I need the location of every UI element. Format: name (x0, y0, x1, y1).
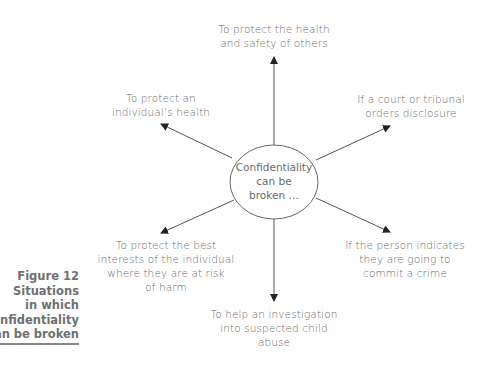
situation-line: orders disclosure (346, 106, 476, 120)
center-line: can be (230, 174, 318, 188)
arrow-upper-right (316, 126, 390, 160)
caption-line: in which (0, 298, 79, 313)
situation-line: If a court or tribunal (346, 92, 476, 106)
situation-line: they are going to (330, 252, 479, 266)
figure-caption: Figure 12 Situations in which confidenti… (0, 269, 79, 342)
caption-line: can be broken (0, 327, 79, 342)
situation-line: To help an investigation (200, 307, 348, 321)
situation-top: To protect the health and safety of othe… (204, 22, 344, 50)
situation-line: individual’s health (98, 105, 224, 119)
situation-line: If the person indicates (330, 238, 479, 252)
situation-lower-left: To protect the best interests of the ind… (90, 238, 242, 294)
arrow-lower-left (161, 200, 234, 233)
situation-line: commit a crime (330, 266, 479, 280)
situation-upper-right: If a court or tribunal orders disclosure (346, 92, 476, 120)
situation-line: into suspected child (200, 321, 348, 335)
situation-bottom: To help an investigation into suspected … (200, 307, 348, 349)
center-line: Confidentiality (230, 160, 318, 174)
center-node-label: Confidentiality can be broken … (230, 160, 318, 202)
caption-divider (0, 343, 79, 345)
situation-line: abuse (200, 335, 348, 349)
center-line: broken … (230, 188, 318, 202)
situation-line: To protect the health (204, 22, 344, 36)
situation-line: To protect the best (90, 238, 242, 252)
caption-line: Situations (0, 284, 79, 299)
situation-line: of harm (90, 280, 242, 294)
caption-line: confidentiality (0, 313, 79, 328)
situation-line: interests of the individual (90, 252, 242, 266)
situation-lower-right: If the person indicates they are going t… (330, 238, 479, 280)
figure-number: Figure 12 (0, 269, 79, 284)
arrow-upper-left (161, 124, 232, 158)
situation-upper-left: To protect an individual’s health (98, 91, 224, 119)
situation-line: and safety of others (204, 36, 344, 50)
arrow-lower-right (316, 198, 390, 232)
situation-line: To protect an (98, 91, 224, 105)
situation-line: where they are at risk (90, 266, 242, 280)
